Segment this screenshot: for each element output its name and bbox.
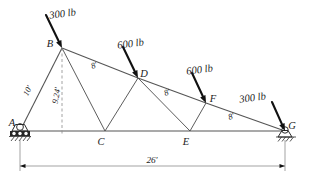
node-label-d: D xyxy=(139,68,148,79)
load-g-label: 300 lb xyxy=(238,90,267,105)
load-b-label: 300 lb xyxy=(48,6,77,21)
applied-loads: 300 lb600 lb600 lb300 lb xyxy=(46,6,285,131)
truss-diagram-canvas: 300 lb600 lb600 lb300 lb ABCDEFG 10'9.24… xyxy=(0,0,315,182)
member-fg xyxy=(206,103,285,131)
member-de xyxy=(138,78,190,131)
member-ef xyxy=(190,103,206,131)
truss-diagram: 300 lb600 lb600 lb300 lb ABCDEFG 10'9.24… xyxy=(0,0,315,182)
support-a-roller-2 xyxy=(18,132,21,135)
member-cd xyxy=(105,78,138,131)
node-label-a: A xyxy=(8,117,16,128)
load-b-arrowhead xyxy=(56,40,62,48)
support-a-roller-1 xyxy=(12,132,15,135)
span-dimension-label: 26' xyxy=(146,155,158,165)
dim-df-label: 8' xyxy=(163,87,172,98)
dim-ab-label: 10' xyxy=(21,84,34,97)
member-bc xyxy=(62,48,105,131)
support-a-hatching xyxy=(11,137,31,142)
span-arrow-left xyxy=(20,164,26,168)
dim-height-label: 9.24' xyxy=(51,86,63,104)
load-f-label: 600 lb xyxy=(186,62,214,77)
load-d-shaft xyxy=(123,47,135,71)
load-f-shaft xyxy=(192,73,203,96)
load-g-shaft xyxy=(272,102,282,124)
node-label-f: F xyxy=(209,93,217,104)
span-dimension: 26' xyxy=(20,140,285,171)
node-label-e: E xyxy=(182,136,190,147)
span-arrow-right xyxy=(280,164,286,168)
node-label-c: C xyxy=(97,136,105,147)
support-a-roller-3 xyxy=(24,132,27,135)
load-d-label: 600 lb xyxy=(117,36,145,51)
support-g-hatching xyxy=(278,137,294,142)
node-label-b: B xyxy=(47,38,54,49)
node-label-g: G xyxy=(288,120,296,131)
